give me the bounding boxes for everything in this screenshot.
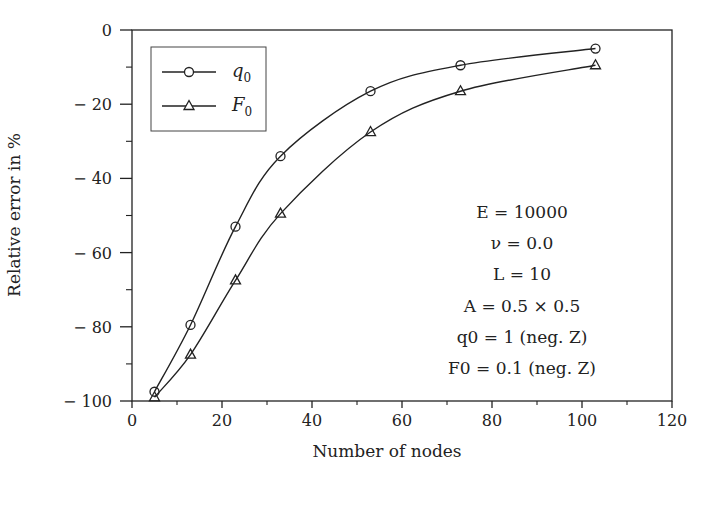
data-point (591, 60, 601, 69)
y-tick-label: − 40 (73, 169, 112, 188)
line-chart: 020406080100120 0− 20− 40− 60− 80− 100 N… (0, 0, 714, 513)
x-axis-label: Number of nodes (312, 441, 461, 461)
y-tick-label: − 80 (73, 318, 112, 337)
annotation-L: L = 10 (493, 264, 551, 284)
x-tick-label: 80 (482, 411, 502, 430)
annotation-q0: q0 = 1 (neg. Z) (457, 327, 588, 347)
x-tick-label: 20 (212, 411, 232, 430)
annotation-A: A = 0.5 × 0.5 (463, 296, 580, 316)
x-tick-label: 120 (657, 411, 688, 430)
x-tick-label: 0 (127, 411, 137, 430)
y-axis-ticks: 0− 20− 40− 60− 80− 100 (63, 21, 132, 411)
x-tick-label: 40 (302, 411, 322, 430)
y-tick-label: − 20 (73, 95, 112, 114)
y-tick-label: − 60 (73, 244, 112, 263)
annotation-E: E = 10000 (476, 202, 568, 222)
y-tick-label: − 100 (63, 392, 112, 411)
parameter-annotations: E = 10000 ν = 0.0 L = 10 A = 0.5 × 0.5 q… (448, 202, 596, 378)
x-tick-label: 100 (567, 411, 598, 430)
legend: q0 F0 (151, 47, 266, 131)
x-tick-label: 60 (392, 411, 412, 430)
y-tick-label: 0 (102, 21, 112, 40)
circle-marker-icon (185, 68, 194, 77)
x-axis-ticks: 020406080100120 (127, 401, 687, 430)
y-axis-label: Relative error in % (4, 133, 24, 297)
annotation-nu: ν = 0.0 (491, 233, 553, 253)
annotation-F0: F0 = 0.1 (neg. Z) (448, 358, 596, 378)
